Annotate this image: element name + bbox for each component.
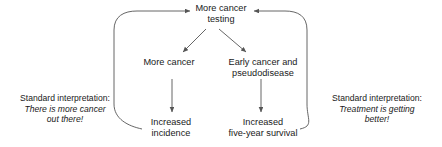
- caption-left-standard-interpretation: Standard interpretation: There is more c…: [2, 93, 128, 125]
- caption-right-quote: Treatment is getting better!: [314, 104, 440, 125]
- caption-left-lead: Standard interpretation:: [2, 93, 128, 104]
- node-more-cancer-testing: More cancer testing: [158, 3, 284, 25]
- cancer-testing-feedback-diagram: More cancer testing More cancer Early ca…: [0, 0, 442, 147]
- node-more-cancer: More cancer: [124, 57, 214, 68]
- node-increased-five-year-survival: Increased five-year survival: [208, 117, 318, 139]
- caption-left-quote: There is more cancer out there!: [2, 104, 128, 125]
- node-early-cancer-and-pseudodisease: Early cancer and pseudodisease: [210, 57, 316, 79]
- node-increased-incidence: Increased incidence: [128, 117, 214, 139]
- caption-right-lead: Standard interpretation:: [314, 93, 440, 104]
- edge-testing-to-early-cancer: [219, 29, 246, 52]
- edge-testing-to-more-cancer: [183, 29, 206, 52]
- caption-right-standard-interpretation: Standard interpretation: Treatment is ge…: [314, 93, 440, 125]
